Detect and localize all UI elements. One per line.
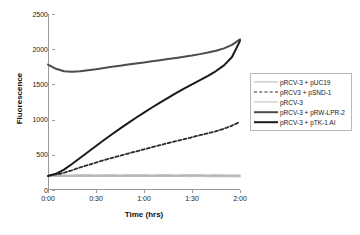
legend-label: pRCV-3 + pUC19 <box>279 79 330 86</box>
x-tick-label: 0:30 <box>76 195 116 202</box>
chart-legend: pRCV-3 + pUC19pRCV3 + pSND-1pRCV-3pRCV-3… <box>250 73 352 131</box>
legend-item: pRCV3 + pSND-1 <box>253 87 348 97</box>
x-tick-label: 1:30 <box>172 195 212 202</box>
legend-item: pRCV-3 <box>253 97 348 107</box>
legend-label: pRCV-3 <box>279 99 303 106</box>
legend-swatch-icon <box>253 78 279 87</box>
legend-item: pRCV-3 + pRW-LPR-2 <box>253 107 348 117</box>
x-tick-mark <box>144 190 145 193</box>
x-axis-title: Time (hrs) <box>48 210 240 219</box>
x-tick-mark <box>240 190 241 193</box>
chart-figure: 05001000150020002500 0:000:301:001:302:0… <box>0 0 360 235</box>
x-tick-mark <box>96 190 97 193</box>
x-tick-mark <box>192 190 193 193</box>
legend-swatch-icon <box>253 98 279 107</box>
x-tick-mark <box>48 190 49 193</box>
legend-swatch-icon <box>253 118 279 127</box>
x-tick-label: 2:00 <box>220 195 260 202</box>
legend-label: pRCV-3 + pRW-LPR-2 <box>279 109 345 116</box>
legend-label: pRCV3 + pSND-1 <box>279 89 331 96</box>
x-tick-label: 0:00 <box>28 195 68 202</box>
legend-item: pRCV-3 + pTK-1 AI <box>253 117 348 127</box>
legend-item: pRCV-3 + pUC19 <box>253 77 348 87</box>
legend-label: pRCV-3 + pTK-1 AI <box>279 119 335 126</box>
x-tick-label: 1:00 <box>124 195 164 202</box>
legend-swatch-icon <box>253 108 279 117</box>
legend-swatch-icon <box>253 88 279 97</box>
y-axis-title: Fluorescence <box>15 39 24 159</box>
